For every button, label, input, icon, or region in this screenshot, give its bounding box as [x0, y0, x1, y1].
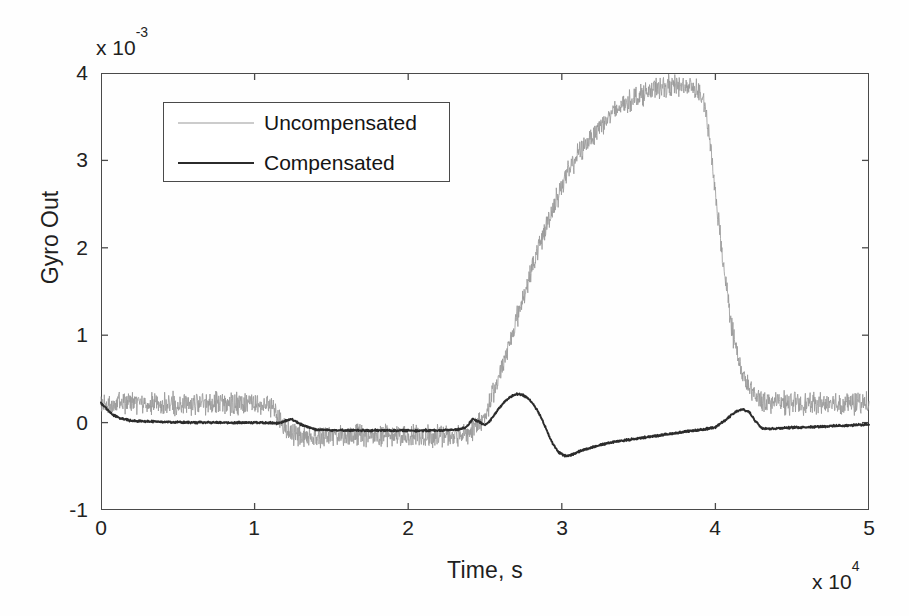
x-exponent-base: x 10 [812, 570, 852, 593]
figure: x 10-3 4 3 2 1 0 -1 0 1 2 3 4 5 Time, s … [0, 0, 909, 616]
y-tick-label: 4 [58, 61, 88, 85]
y-tick-label: 3 [58, 148, 88, 172]
legend: Uncompensated Compensated [163, 102, 450, 182]
x-tick-label: 0 [95, 516, 107, 540]
legend-label: Compensated [264, 151, 395, 175]
legend-label: Uncompensated [264, 111, 417, 135]
x-tick-label: 1 [248, 516, 260, 540]
x-tick-label: 2 [402, 516, 414, 540]
legend-line-sample-uncompensated [178, 123, 254, 124]
legend-line-sample-compensated [178, 162, 254, 164]
x-tick-label: 5 [863, 516, 875, 540]
y-axis-label: Gyro Out [37, 172, 64, 304]
legend-item-compensated: Compensated [164, 143, 449, 183]
legend-item-uncompensated: Uncompensated [164, 103, 449, 143]
y-tick-label: -1 [52, 498, 88, 522]
y-tick-label: 1 [58, 323, 88, 347]
y-tick-label: 0 [58, 411, 88, 435]
plot-canvas [0, 0, 909, 616]
x-exponent-power: 4 [852, 558, 860, 574]
x-tick-label: 3 [556, 516, 568, 540]
x-axis-label: Time, s [101, 557, 869, 584]
x-axis-exponent: x 104 [812, 568, 860, 594]
x-tick-label: 4 [709, 516, 721, 540]
